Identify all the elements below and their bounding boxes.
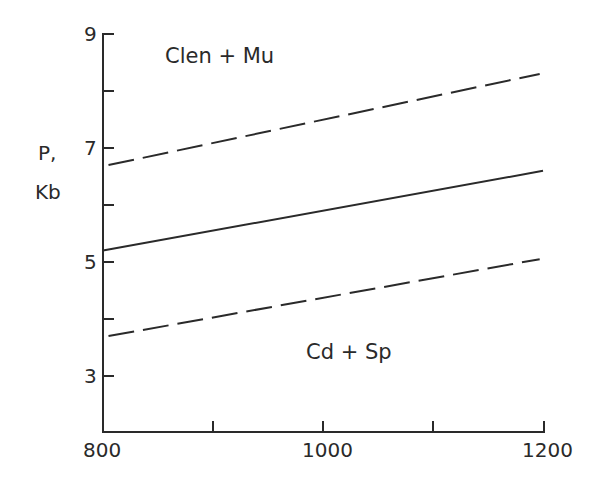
- y-tick-label-9: 9: [84, 24, 97, 44]
- series-lines: [103, 74, 543, 336]
- y-ticks: [103, 34, 114, 376]
- x-ticks: [213, 421, 544, 432]
- dashed-boundary-line: [109, 259, 540, 336]
- y-tick-label-3: 3: [84, 366, 97, 386]
- y-tick-label-5: 5: [84, 252, 97, 272]
- y-axis-label-kb: Kb: [35, 182, 61, 202]
- solid-boundary-line: [103, 171, 543, 251]
- y-axis-label-p: P,: [38, 143, 56, 163]
- axes: [102, 33, 545, 433]
- field-label-clen-mu: Clen + Mu: [165, 46, 274, 67]
- dashed-boundary-line: [109, 74, 540, 165]
- x-tick-label-800: 800: [83, 440, 121, 460]
- y-tick-label-7: 7: [84, 138, 97, 158]
- x-tick-label-1000: 1000: [302, 440, 353, 460]
- x-tick-label-1200: 1200: [522, 440, 573, 460]
- field-label-cd-sp: Cd + Sp: [306, 342, 392, 363]
- phase-diagram-plot: [0, 0, 602, 496]
